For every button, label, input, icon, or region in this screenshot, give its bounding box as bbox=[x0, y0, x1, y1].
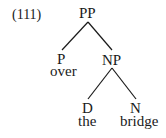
example-number: (111) bbox=[12, 7, 41, 22]
node-np: NP bbox=[102, 53, 121, 68]
node-pp: PP bbox=[79, 6, 96, 21]
branch-pp-np bbox=[88, 22, 112, 50]
branch-np-d bbox=[88, 68, 112, 99]
branch-np-n bbox=[112, 68, 136, 99]
word-the: the bbox=[78, 114, 96, 129]
branch-pp-p bbox=[62, 22, 88, 50]
word-bridge: bridge bbox=[120, 114, 158, 129]
word-over: over bbox=[50, 64, 77, 79]
